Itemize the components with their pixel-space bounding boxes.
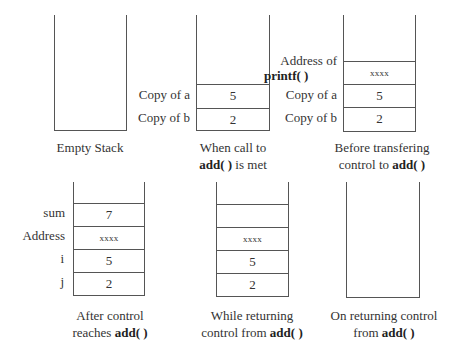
function-name: add( ) [382, 325, 415, 340]
label-i: i [0, 251, 64, 267]
function-name: add( ) [270, 325, 303, 340]
stack-cell: 5 [217, 250, 288, 273]
caption-line: When call to [178, 139, 288, 156]
stack-cell: 5 [74, 249, 144, 272]
stack-cell: 5 [197, 84, 269, 108]
function-name: add( ) [199, 157, 232, 172]
caption-line: On returning control [323, 307, 445, 324]
caption-line: add( ) is met [178, 156, 288, 173]
label-sum: sum [0, 205, 65, 221]
stack-after-control: 7 xxxx 5 2 [73, 182, 145, 296]
function-name: printf( ) [264, 68, 308, 83]
label-j: j [0, 274, 64, 290]
label-copy-of-a: Copy of a [262, 87, 337, 103]
function-name: add( ) [392, 157, 425, 172]
stack-empty [54, 15, 127, 131]
caption-line: from add( ) [323, 324, 445, 341]
caption-text: reaches [72, 325, 114, 340]
caption-line: While returning [187, 307, 317, 324]
caption-after-control: After control reaches add( ) [55, 307, 165, 341]
stack-before-transfer: xxxx 5 2 [343, 15, 416, 132]
caption-line: After control [55, 307, 165, 324]
label-copy-of-a: Copy of a [120, 87, 190, 103]
caption-line: Before transfering [322, 139, 442, 156]
stack-cell: 2 [217, 273, 288, 296]
caption-line: control from add( ) [187, 324, 317, 341]
label-text: Address of [262, 53, 337, 68]
caption-empty-stack: Empty Stack [40, 139, 140, 156]
label-copy-of-b: Copy of b [120, 110, 190, 126]
stack-cell: 7 [74, 203, 144, 226]
caption-text: is met [232, 157, 267, 172]
caption-text: control to [339, 157, 392, 172]
label-copy-of-b: Copy of b [262, 110, 337, 126]
stack-while-returning: xxxx 5 2 [216, 182, 289, 297]
caption-call-met: When call to add( ) is met [178, 139, 288, 173]
function-name: add( ) [115, 325, 148, 340]
stack-cell: 2 [344, 107, 415, 131]
caption-text: control from [201, 325, 270, 340]
caption-line: control to add( ) [322, 156, 442, 173]
label-text: printf( ) [262, 68, 337, 83]
stack-cell: 5 [344, 84, 415, 107]
caption-text: from [353, 325, 382, 340]
stack-cell [217, 204, 288, 227]
caption-text: Empty Stack [57, 140, 124, 155]
caption-line: reaches add( ) [55, 324, 165, 341]
stack-cell: 2 [74, 272, 144, 295]
stack-cell: xxxx [344, 61, 415, 84]
stack-cell: xxxx [217, 227, 288, 250]
stack-call-met: 5 2 [196, 15, 270, 131]
label-address-of-printf: Address of printf( ) [262, 53, 337, 83]
stack-cell: xxxx [74, 226, 144, 249]
stack-on-returning [346, 182, 420, 298]
caption-while-returning: While returning control from add( ) [187, 307, 317, 341]
caption-on-returning: On returning control from add( ) [323, 307, 445, 341]
stack-cell: 2 [197, 108, 269, 130]
caption-before-transfer: Before transfering control to add( ) [322, 139, 442, 173]
label-address: Address [0, 228, 65, 244]
